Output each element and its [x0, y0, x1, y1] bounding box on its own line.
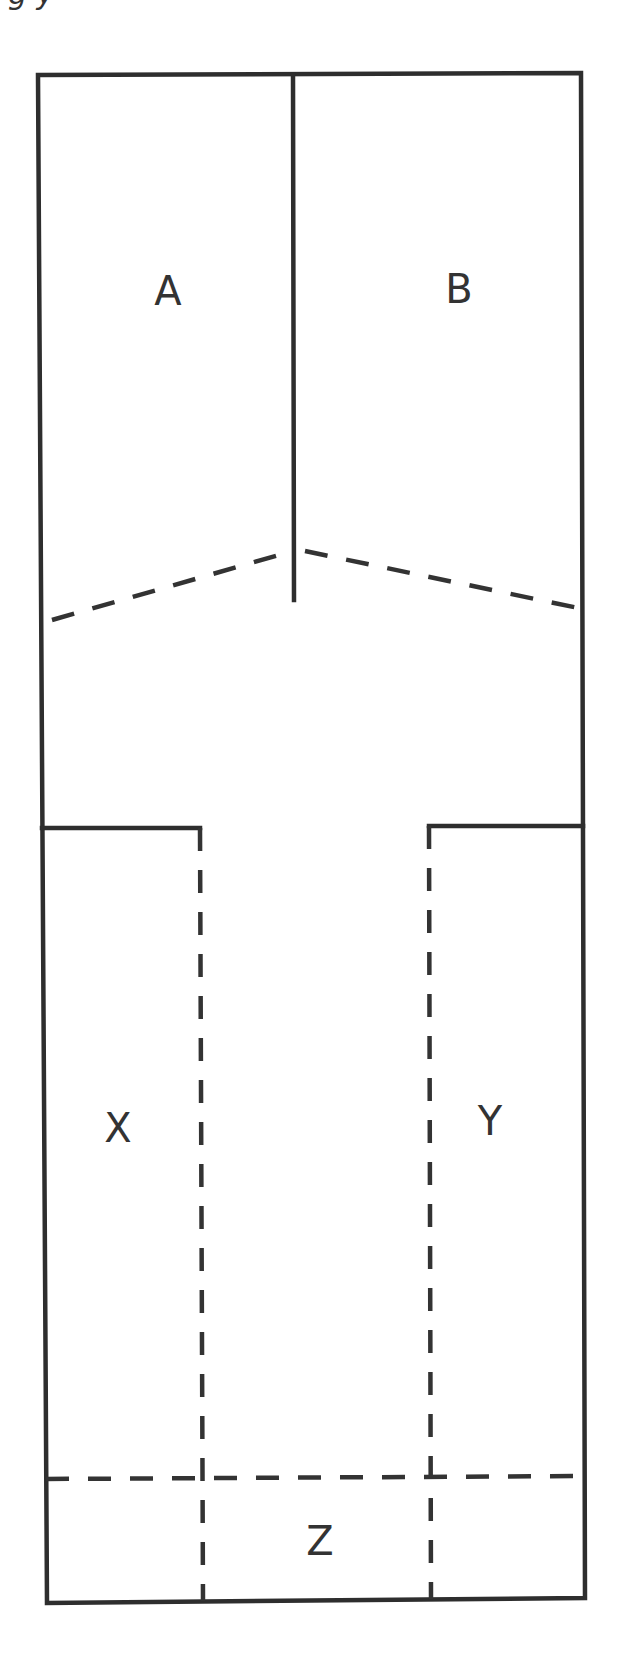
top-center-divider	[293, 75, 294, 600]
region-label-x: X	[104, 1105, 131, 1151]
region-label-a: A	[154, 268, 182, 314]
bottom-crossbar-dashed	[46, 1476, 584, 1479]
region-label-b: B	[445, 266, 472, 312]
right-stem-dashed	[429, 826, 431, 1599]
region-label-z: Z	[306, 1518, 333, 1564]
region-label-y: Y	[477, 1098, 503, 1144]
left-chevron-dashed	[52, 551, 293, 620]
left-stem-dashed	[200, 828, 203, 1601]
outer-border	[38, 73, 585, 1603]
right-chevron-dashed	[305, 551, 583, 609]
diagram-canvas: A B X Y Z	[0, 0, 622, 1661]
